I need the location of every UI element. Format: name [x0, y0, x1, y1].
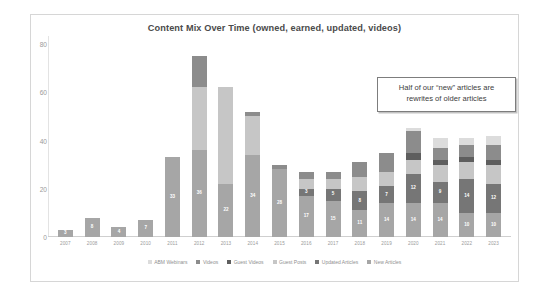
bar-segment[interactable] — [326, 172, 341, 179]
bar-segment[interactable] — [299, 179, 314, 189]
bar-segment[interactable] — [379, 153, 394, 172]
bar-segment[interactable] — [192, 56, 207, 87]
bar-segment[interactable] — [433, 165, 448, 182]
bar-segment[interactable]: 8 — [352, 191, 367, 210]
bar-group-2015[interactable]: 282015 — [266, 44, 293, 237]
legend-label: Guest Posts — [279, 259, 306, 265]
annotation-line-2: rewrites of older articles — [382, 94, 511, 105]
bar-segment[interactable]: 11 — [352, 210, 367, 237]
bar-group-2018[interactable]: 1182018 — [346, 44, 373, 237]
bar-stack: 34 — [245, 112, 260, 237]
chart-screenshot: Content Mix Over Time (owned, earned, up… — [0, 0, 542, 300]
bar-segment[interactable] — [352, 177, 367, 191]
bar-value-label: 12 — [411, 186, 416, 191]
bar-group-2016[interactable]: 1732016 — [293, 44, 320, 237]
bar-group-2017[interactable]: 1552017 — [320, 44, 347, 237]
bar-value-label: 14 — [411, 218, 416, 223]
bar-segment[interactable]: 17 — [299, 196, 314, 237]
bar-stack: 118 — [352, 162, 367, 237]
x-tick-label: 2007 — [60, 241, 71, 246]
legend-item[interactable]: New Articles — [367, 259, 401, 265]
bar-segment[interactable] — [459, 157, 474, 162]
bar-value-label: 14 — [464, 194, 469, 199]
bar-segment[interactable] — [406, 153, 421, 160]
bar-group-2013[interactable]: 222013 — [213, 44, 240, 237]
bar-segment[interactable]: 34 — [245, 155, 260, 237]
bar-segment[interactable] — [486, 136, 501, 146]
bar-group-2014[interactable]: 342014 — [239, 44, 266, 237]
bar-group-2021[interactable]: 1492021 — [427, 44, 454, 237]
bar-segment[interactable] — [459, 145, 474, 157]
bar-segment[interactable]: 4 — [111, 227, 126, 237]
bar-segment[interactable]: 22 — [218, 184, 233, 237]
legend-item[interactable]: ABM Webinars — [148, 259, 188, 265]
bar-segment[interactable]: 14 — [379, 203, 394, 237]
bar-segment[interactable]: 36 — [192, 150, 207, 237]
x-tick-label: 2016 — [301, 241, 312, 246]
legend-item[interactable]: Guest Videos — [227, 259, 263, 265]
bar-segment[interactable] — [433, 160, 448, 165]
bar-segment[interactable]: 10 — [486, 213, 501, 237]
legend-item[interactable]: Updated Articles — [315, 259, 358, 265]
bar-segment[interactable] — [406, 160, 421, 174]
bar-segment[interactable] — [245, 116, 260, 155]
bar-segment[interactable]: 14 — [406, 203, 421, 237]
bar-segment[interactable]: 7 — [379, 186, 394, 203]
bar-segment[interactable] — [192, 87, 207, 150]
bar-segment[interactable]: 28 — [272, 169, 287, 237]
legend-item[interactable]: Videos — [196, 259, 218, 265]
bar-segment[interactable] — [218, 87, 233, 184]
bar-segment[interactable] — [459, 162, 474, 179]
bar-group-2007[interactable]: 32007 — [52, 44, 79, 237]
bar-segment[interactable]: 12 — [486, 184, 501, 213]
bar-segment[interactable] — [245, 112, 260, 117]
bar-value-label: 9 — [439, 190, 442, 195]
bar-segment[interactable] — [433, 138, 448, 148]
bar-segment[interactable] — [379, 172, 394, 186]
bar-stack: 155 — [326, 172, 341, 237]
bar-value-label: 8 — [91, 225, 94, 230]
legend-label: New Articles — [374, 259, 402, 265]
bar-group-2008[interactable]: 82008 — [79, 44, 106, 237]
bar-segment[interactable] — [433, 148, 448, 160]
bar-segment[interactable]: 14 — [459, 179, 474, 213]
y-tick-label: 0 — [43, 234, 47, 241]
bar-segment[interactable]: 5 — [326, 189, 341, 201]
legend-item[interactable]: Guest Posts — [273, 259, 307, 265]
bar-segment[interactable]: 3 — [299, 189, 314, 196]
legend-swatch-icon — [273, 260, 277, 264]
bar-segment[interactable] — [299, 172, 314, 179]
bar-group-2011[interactable]: 332011 — [159, 44, 186, 237]
bar-segment[interactable]: 9 — [433, 182, 448, 204]
bar-group-2009[interactable]: 42009 — [106, 44, 133, 237]
bar-segment[interactable] — [486, 145, 501, 159]
bar-segment[interactable] — [272, 165, 287, 170]
bar-group-2022[interactable]: 10142022 — [453, 44, 480, 237]
bar-group-2019[interactable]: 1472019 — [373, 44, 400, 237]
bar-segment[interactable] — [352, 162, 367, 176]
bar-segment[interactable]: 12 — [406, 174, 421, 203]
x-tick-label: 2014 — [247, 241, 258, 246]
bar-value-label: 10 — [464, 223, 469, 228]
bar-segment[interactable] — [326, 179, 341, 189]
bar-segment[interactable] — [406, 128, 421, 130]
bar-group-2012[interactable]: 362012 — [186, 44, 213, 237]
bar-segment[interactable] — [486, 160, 501, 165]
bar-segment[interactable]: 15 — [326, 201, 341, 237]
bar-segment[interactable]: 10 — [459, 213, 474, 237]
bar-segment[interactable] — [486, 165, 501, 184]
bar-value-label: 7 — [144, 226, 147, 231]
bar-group-2020[interactable]: 14122020 — [400, 44, 427, 237]
bar-value-label: 7 — [385, 193, 388, 198]
bar-group-2010[interactable]: 72010 — [132, 44, 159, 237]
bar-segment[interactable] — [406, 131, 421, 153]
annotation-callout: Half of our “new” articles are rewrites … — [377, 77, 516, 112]
bar-segment[interactable]: 14 — [433, 203, 448, 237]
bar-value-label: 36 — [197, 191, 202, 196]
bar-segment[interactable]: 3 — [58, 230, 73, 237]
bar-segment[interactable]: 7 — [138, 220, 153, 237]
bar-segment[interactable]: 8 — [85, 218, 100, 237]
bar-group-2023[interactable]: 10122023 — [480, 44, 507, 237]
bar-segment[interactable]: 33 — [165, 157, 180, 237]
bar-segment[interactable] — [459, 138, 474, 145]
